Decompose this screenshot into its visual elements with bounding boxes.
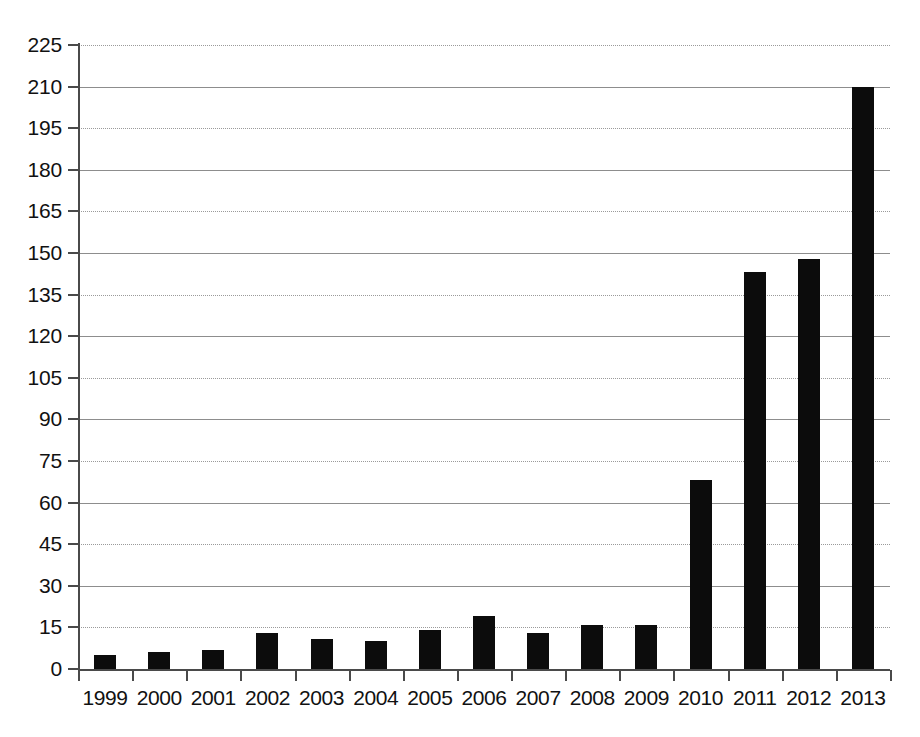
x-axis-tick-label: 2007: [508, 686, 568, 709]
y-axis-tick: [68, 86, 80, 88]
y-axis-tick: [68, 335, 80, 337]
x-axis-tick: [890, 670, 892, 681]
gridline: [78, 87, 890, 89]
bar-2011: [744, 272, 766, 669]
bar-1999: [94, 655, 116, 669]
bar-2002: [256, 633, 278, 669]
gridline: [78, 378, 890, 380]
y-axis-tick: [68, 377, 80, 379]
y-axis-tick-label: 0: [2, 658, 62, 679]
x-axis-tick: [403, 670, 405, 681]
y-axis-tick: [68, 626, 80, 628]
bar-2007: [527, 633, 549, 669]
bar-2005: [419, 630, 441, 669]
y-axis-tick: [68, 543, 80, 545]
y-axis-tick: [68, 127, 80, 129]
x-axis-tick: [673, 670, 675, 681]
bar-2013: [852, 87, 874, 669]
x-axis-tick-label: 2005: [400, 686, 460, 709]
x-axis-tick-label: 2012: [779, 686, 839, 709]
gridline: [78, 170, 890, 172]
x-axis-tick: [349, 670, 351, 681]
y-axis-tick-label: 15: [2, 616, 62, 637]
y-axis-tick: [68, 585, 80, 587]
bar-2012: [798, 259, 820, 669]
y-axis-tick-label: 225: [2, 34, 62, 55]
x-axis-tick: [132, 670, 134, 681]
gridline: [78, 586, 890, 588]
bar-2003: [311, 639, 333, 670]
gridline: [78, 336, 890, 338]
y-axis-tick-label: 120: [2, 325, 62, 346]
x-axis-line: [78, 669, 890, 671]
y-axis-tick: [68, 169, 80, 171]
gridline: [78, 461, 890, 463]
x-axis-tick: [295, 670, 297, 681]
y-axis-tick: [68, 294, 80, 296]
x-axis-tick: [511, 670, 513, 681]
x-axis-tick: [565, 670, 567, 681]
y-axis-tick: [68, 418, 80, 420]
x-axis-tick-label: 2003: [292, 686, 352, 709]
x-axis-tick-label: 2004: [346, 686, 406, 709]
y-axis-tick-label: 90: [2, 408, 62, 429]
x-axis-tick-label: 2013: [833, 686, 893, 709]
x-axis-tick-label: 2001: [183, 686, 243, 709]
bar-2009: [635, 625, 657, 669]
x-axis-tick: [619, 670, 621, 681]
gridline: [78, 544, 890, 546]
gridline: [78, 253, 890, 255]
gridline: [78, 419, 890, 421]
x-axis-tick: [240, 670, 242, 681]
y-axis-tick: [68, 460, 80, 462]
x-axis-tick-label: 2002: [237, 686, 297, 709]
y-axis-tick: [68, 502, 80, 504]
bar-2001: [202, 650, 224, 669]
y-axis-tick-label: 210: [2, 76, 62, 97]
y-axis-tick-label: 45: [2, 533, 62, 554]
x-axis-tick: [78, 670, 80, 681]
y-axis-tick-label: 135: [2, 284, 62, 305]
y-axis-tick-label: 180: [2, 159, 62, 180]
x-axis-tick-label: 1999: [75, 686, 135, 709]
y-axis-tick-label: 75: [2, 450, 62, 471]
plot-area: [78, 45, 890, 669]
gridline: [78, 295, 890, 297]
x-axis-tick-label: 2006: [454, 686, 514, 709]
y-axis-tick-label: 195: [2, 117, 62, 138]
y-axis-tick-label: 150: [2, 242, 62, 263]
y-axis-line: [78, 43, 80, 671]
bar-2008: [581, 625, 603, 669]
bar-2000: [148, 652, 170, 669]
y-axis-tick: [68, 668, 80, 670]
y-axis-tick: [68, 210, 80, 212]
bar-2004: [365, 641, 387, 669]
x-axis-tick-label: 2008: [562, 686, 622, 709]
x-axis-tick: [457, 670, 459, 681]
x-axis-tick: [836, 670, 838, 681]
gridline: [78, 128, 890, 130]
gridline: [78, 503, 890, 505]
y-axis-tick: [68, 252, 80, 254]
x-axis-tick-label: 2011: [725, 686, 785, 709]
x-axis-tick: [728, 670, 730, 681]
y-axis-tick: [68, 44, 80, 46]
y-axis-tick-label: 60: [2, 492, 62, 513]
bar-chart: 0153045607590105120135150165180195210225…: [0, 0, 920, 737]
bar-2010: [690, 480, 712, 669]
x-axis-tick-label: 2009: [616, 686, 676, 709]
x-axis-tick: [186, 670, 188, 681]
gridline: [78, 45, 890, 47]
y-axis-tick-label: 105: [2, 367, 62, 388]
x-axis-tick-label: 2000: [129, 686, 189, 709]
y-axis-tick-label: 30: [2, 575, 62, 596]
y-axis-tick-label: 165: [2, 200, 62, 221]
x-axis-tick: [782, 670, 784, 681]
gridline: [78, 211, 890, 213]
x-axis-tick-label: 2010: [671, 686, 731, 709]
bar-2006: [473, 616, 495, 669]
